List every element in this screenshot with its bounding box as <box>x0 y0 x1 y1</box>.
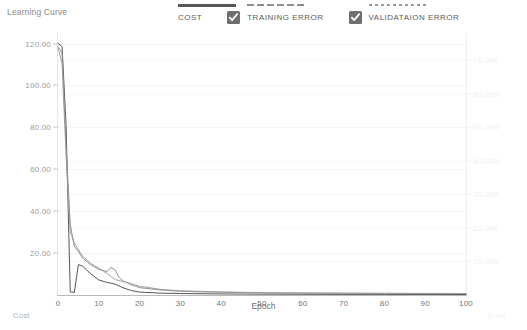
y-axis-tick-left: 20.00 <box>30 249 58 258</box>
checkmark-icon <box>350 12 361 23</box>
y-axis-tick-right: 60.000 <box>466 89 499 98</box>
tick-mark <box>466 59 471 60</box>
y-axis-tick-left: 60.00 <box>30 165 58 174</box>
tick-mark <box>466 261 471 262</box>
chart-legend: COST TRAINING ERROR <box>178 2 484 28</box>
tick-mark <box>466 127 471 128</box>
tick-mark <box>466 194 471 195</box>
y-axis-tick-right: 50.000 <box>466 123 499 132</box>
y-axis-tick-label-left: 100.00 <box>25 81 51 90</box>
y-axis-tick-left: 100.00 <box>25 81 58 90</box>
series-line-validataion-error <box>58 48 466 293</box>
y-axis-tick-right: 40.000 <box>466 156 499 165</box>
legend-item-training-error[interactable]: TRAINING ERROR <box>227 2 323 24</box>
y-axis-tick-label-left: 60.00 <box>30 165 51 174</box>
y-axis-tick-left: 120.00 <box>25 39 58 48</box>
legend-checkbox-training-error[interactable] <box>227 11 240 24</box>
series-layer <box>58 33 466 295</box>
tick-mark <box>466 227 471 228</box>
learning-curve-chart-panel: Learning Curve COST TRAINING ERROR <box>0 0 527 330</box>
legend-item-validation-error[interactable]: VALIDATAION ERROR <box>349 2 460 24</box>
y-axis-tick-label-right: 20.000 <box>473 223 499 232</box>
x-axis-title: Epoch <box>0 301 527 311</box>
y-axis-tick-right: 70.000 <box>466 55 499 64</box>
legend-checkbox-validation-error[interactable] <box>349 11 362 24</box>
y-axis-title-right: Error <box>488 311 506 320</box>
y-axis-tick-label-left: 20.00 <box>30 249 51 258</box>
y-axis-tick-label-left: 120.00 <box>25 39 51 48</box>
plot-area: 20.0040.0060.0080.00100.00120.0010.00020… <box>57 33 467 295</box>
series-line-training-error <box>58 46 466 293</box>
page-title: Learning Curve <box>7 7 67 17</box>
y-axis-tick-label-left: 40.00 <box>30 207 51 216</box>
y-axis-tick-right: 20.000 <box>466 223 499 232</box>
legend-line-swatch-validation-error <box>369 4 427 6</box>
checkmark-icon <box>228 12 239 23</box>
y-axis-tick-label-right: 40.000 <box>473 156 499 165</box>
y-axis-tick-label-right: 50.000 <box>473 123 499 132</box>
series-line-cost <box>58 43 466 294</box>
legend-line-swatch-training-error <box>247 4 305 6</box>
legend-label-cost: COST <box>178 13 202 23</box>
y-axis-title-left: Cost <box>13 311 29 320</box>
tick-mark <box>466 93 471 94</box>
legend-label-training-error: TRAINING ERROR <box>247 13 323 23</box>
y-axis-tick-right: 30.000 <box>466 190 499 199</box>
y-axis-tick-label-right: 10.000 <box>473 257 499 266</box>
y-axis-tick-label-right: 60.000 <box>473 89 499 98</box>
y-axis-tick-right: 10.000 <box>466 257 499 266</box>
y-axis-tick-label-right: 70.000 <box>473 55 499 64</box>
tick-mark <box>466 160 471 161</box>
legend-label-validation-error: VALIDATAION ERROR <box>369 13 460 23</box>
y-axis-tick-label-right: 30.000 <box>473 190 499 199</box>
legend-item-cost[interactable]: COST <box>178 2 202 23</box>
y-axis-tick-label-left: 80.00 <box>30 123 51 132</box>
y-axis-tick-left: 40.00 <box>30 207 58 216</box>
y-axis-tick-left: 80.00 <box>30 123 58 132</box>
